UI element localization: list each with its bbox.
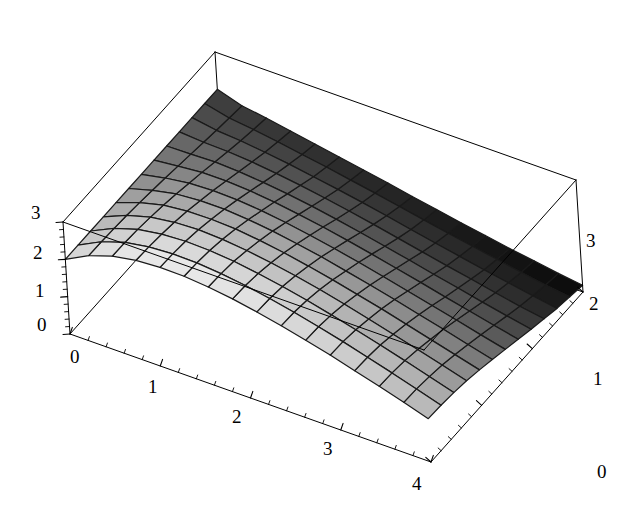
z-axis-tick-label-0: 0 xyxy=(37,315,47,334)
z-axis-tick-label-2: 2 xyxy=(33,243,43,262)
y-axis-tick-label-1: 1 xyxy=(593,369,603,388)
y-axis-tick-label-3: 3 xyxy=(586,231,596,250)
x-axis-tick-label-3: 3 xyxy=(323,439,333,458)
x-axis-tick-label-0: 0 xyxy=(70,347,80,366)
x-axis-tick-label-2: 2 xyxy=(232,407,242,426)
z-axis-tick-label-1: 1 xyxy=(35,281,45,300)
y-axis-tick-label-2: 2 xyxy=(589,294,599,313)
surface-plot-figure: 0123401230123 xyxy=(0,0,633,525)
x-axis-tick-label-4: 4 xyxy=(412,474,422,493)
x-axis-tick-label-1: 1 xyxy=(148,377,158,396)
z-axis-tick-label-3: 3 xyxy=(31,203,41,222)
surface-plot-canvas xyxy=(0,0,633,525)
y-axis-tick-label-0: 0 xyxy=(597,462,607,481)
